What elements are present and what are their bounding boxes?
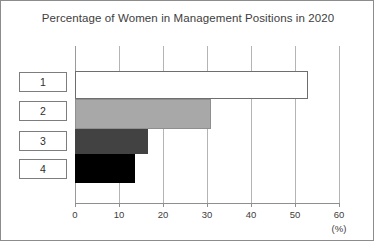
x-tick-mark-10 xyxy=(119,203,120,207)
x-tick-mark-20 xyxy=(163,203,164,207)
x-tick-label-50: 50 xyxy=(290,209,301,220)
x-tick-mark-60 xyxy=(339,203,340,207)
x-tick-label-20: 20 xyxy=(158,209,169,220)
category-label-3: 3 xyxy=(40,135,46,147)
x-tick-mark-0 xyxy=(75,203,76,207)
x-tick-label-60: 60 xyxy=(334,209,345,220)
chart-title: Percentage of Women in Management Positi… xyxy=(1,12,374,24)
category-label-4: 4 xyxy=(40,163,46,175)
category-label-box-2: 2 xyxy=(19,101,67,121)
bar-category-1 xyxy=(75,71,308,99)
x-axis-unit-label: (%) xyxy=(332,223,347,234)
gridline-50 xyxy=(295,46,296,203)
x-tick-mark-40 xyxy=(251,203,252,207)
category-label-1: 1 xyxy=(40,76,46,88)
x-tick-label-0: 0 xyxy=(72,209,77,220)
bar-category-4 xyxy=(75,154,135,183)
x-tick-mark-30 xyxy=(207,203,208,207)
bar-category-3 xyxy=(75,129,148,154)
chart-figure: Percentage of Women in Management Positi… xyxy=(0,0,374,241)
x-tick-mark-50 xyxy=(295,203,296,207)
x-tick-label-10: 10 xyxy=(114,209,125,220)
gridline-60 xyxy=(339,46,340,203)
bar-category-2 xyxy=(75,99,211,129)
plot-area xyxy=(75,46,339,203)
category-label-2: 2 xyxy=(40,105,46,117)
x-tick-label-30: 30 xyxy=(202,209,213,220)
category-label-box-3: 3 xyxy=(19,131,67,151)
category-label-box-4: 4 xyxy=(19,159,67,179)
gridline-40 xyxy=(251,46,252,203)
x-tick-label-40: 40 xyxy=(246,209,257,220)
category-label-box-1: 1 xyxy=(19,72,67,92)
